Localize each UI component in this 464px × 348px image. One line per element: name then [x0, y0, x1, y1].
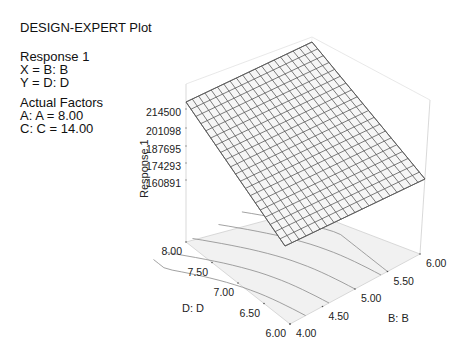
x-axis-label: B: B: [388, 312, 409, 324]
d-tick-label: 7.50: [188, 266, 209, 278]
z-tick-label: 187695: [146, 143, 181, 155]
y-axis-label: D: D: [182, 302, 204, 314]
b-tick-label: 5.00: [361, 292, 382, 304]
b-tick-label: 5.50: [394, 275, 415, 287]
b-tick-label: 4.00: [296, 327, 317, 339]
z-axis-label: Response 1: [138, 139, 150, 198]
d-tick-label: 7.00: [214, 286, 235, 298]
response-surface: [186, 42, 425, 246]
surface-plot: 1608911742931876952010982145006.006.507.…: [0, 0, 464, 348]
z-tick-label: 160891: [146, 177, 181, 189]
d-tick-label: 8.00: [162, 245, 183, 257]
z-tick-label: 174293: [146, 160, 181, 172]
z-tick-label: 214500: [146, 106, 181, 118]
z-tick-label: 201098: [146, 125, 181, 137]
b-tick-label: 4.50: [329, 310, 350, 322]
b-tick-label: 6.00: [426, 257, 447, 269]
d-tick-label: 6.00: [266, 327, 287, 339]
d-tick-label: 6.50: [240, 307, 261, 319]
